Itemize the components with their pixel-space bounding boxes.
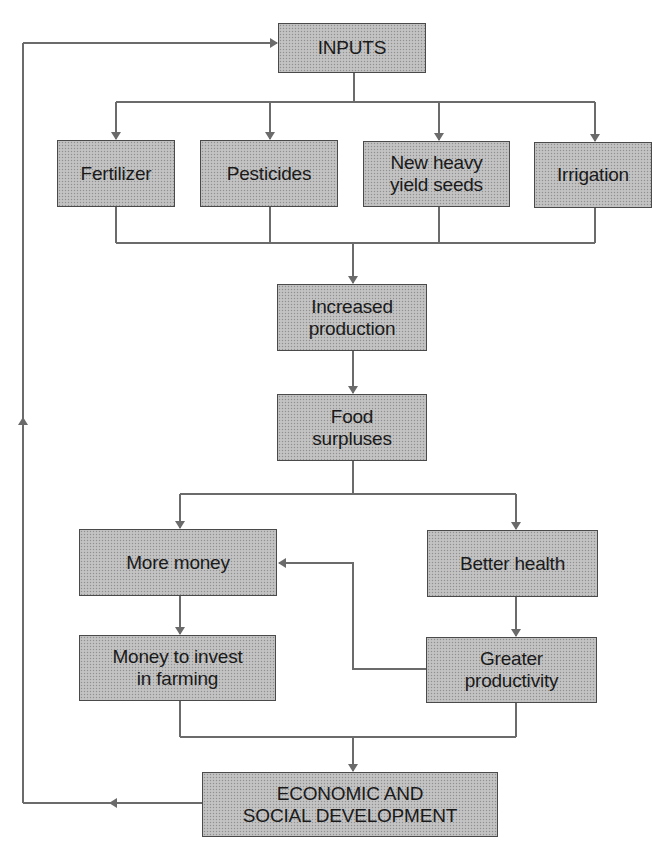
node-fertilizer-label: Fertilizer bbox=[81, 163, 152, 185]
node-irrigation-label: Irrigation bbox=[557, 164, 629, 186]
node-pesticides: Pesticides bbox=[200, 140, 338, 207]
node-better-health: Better health bbox=[427, 530, 598, 597]
node-increased-production-label: Increased production bbox=[309, 296, 396, 340]
node-money-to-invest-label: Money to invest in farming bbox=[112, 646, 242, 690]
node-greater-productivity: Greater productivity bbox=[426, 637, 597, 703]
node-irrigation: Irrigation bbox=[534, 142, 652, 208]
node-seeds: New heavy yield seeds bbox=[363, 141, 510, 207]
node-increased-production: Increased production bbox=[277, 284, 427, 351]
node-better-health-label: Better health bbox=[460, 553, 565, 575]
node-greater-productivity-label: Greater productivity bbox=[465, 648, 559, 692]
node-economic-social-development: ECONOMIC AND SOCIAL DEVELOPMENT bbox=[202, 772, 498, 837]
node-pesticides-label: Pesticides bbox=[227, 163, 312, 185]
node-food-surpluses-label: Food surpluses bbox=[312, 406, 392, 450]
node-inputs-label: INPUTS bbox=[318, 37, 386, 59]
node-inputs: INPUTS bbox=[278, 23, 426, 73]
node-food-surpluses: Food surpluses bbox=[277, 394, 427, 461]
node-more-money: More money bbox=[79, 529, 277, 596]
node-more-money-label: More money bbox=[126, 552, 230, 574]
node-fertilizer: Fertilizer bbox=[57, 140, 175, 207]
node-seeds-label: New heavy yield seeds bbox=[390, 152, 483, 196]
node-economic-social-development-label: ECONOMIC AND SOCIAL DEVELOPMENT bbox=[243, 783, 457, 827]
edge-productivity-to-money bbox=[279, 563, 426, 669]
node-money-to-invest: Money to invest in farming bbox=[79, 635, 276, 701]
